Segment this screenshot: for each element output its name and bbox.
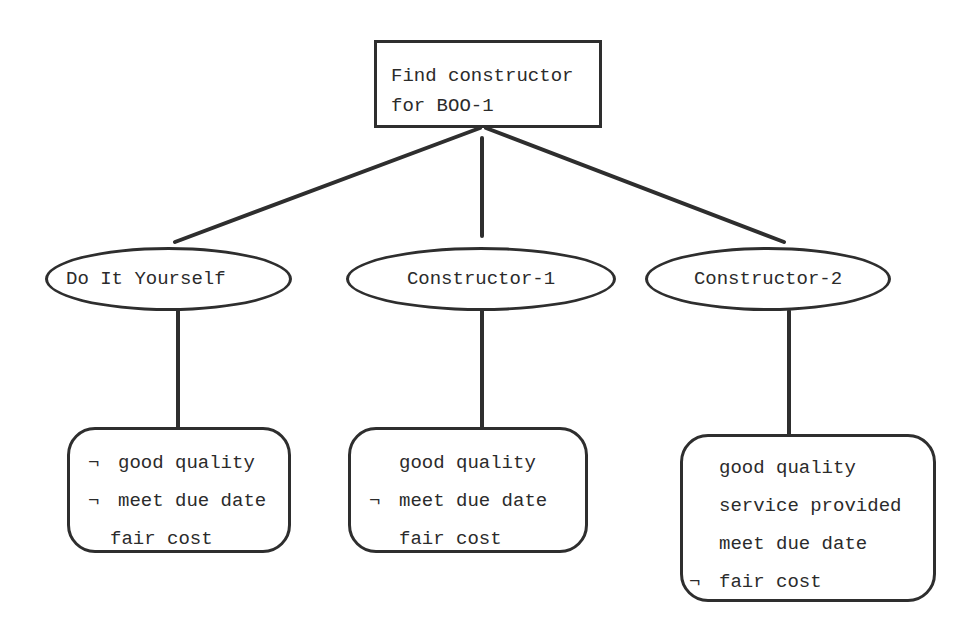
- negation-symbol: [369, 520, 399, 558]
- attribute-text: fair cost: [110, 520, 213, 558]
- negation-symbol: ¬: [88, 444, 118, 482]
- edge-root-c2: [486, 128, 784, 242]
- option-node-constructor-1: Constructor-1: [346, 247, 616, 311]
- option-node-constructor-2: Constructor-2: [645, 247, 891, 311]
- attribute-item: ¬ meet due date: [369, 482, 585, 520]
- attribute-text: meet due date: [719, 525, 867, 563]
- attribute-item: service provided: [689, 487, 933, 525]
- negation-symbol: ¬: [369, 482, 399, 520]
- negation-symbol: [689, 487, 719, 525]
- attribute-item: ¬ fair cost: [689, 563, 933, 601]
- attributes-box-constructor-1: good quality ¬ meet due date fair cost: [348, 427, 588, 553]
- option-label: Do It Yourself: [66, 268, 226, 290]
- option-node-do-it-yourself: Do It Yourself: [45, 247, 292, 311]
- attribute-text: meet due date: [118, 482, 266, 520]
- attribute-item: ¬ meet due date: [88, 482, 288, 520]
- negation-symbol: [88, 520, 110, 558]
- negation-symbol: [369, 444, 399, 482]
- negation-symbol: [689, 449, 719, 487]
- attributes-box-do-it-yourself: ¬ good quality ¬ meet due date fair cost: [67, 427, 291, 553]
- negation-symbol: [689, 525, 719, 563]
- negation-symbol: ¬: [88, 482, 118, 520]
- edge-root-diy: [175, 128, 480, 242]
- option-label: Constructor-1: [407, 268, 555, 290]
- option-label: Constructor-2: [694, 268, 842, 290]
- attribute-text: good quality: [719, 449, 856, 487]
- attribute-item: good quality: [369, 444, 585, 482]
- attribute-item: ¬ good quality: [88, 444, 288, 482]
- attributes-box-constructor-2: good quality service provided meet due d…: [680, 434, 936, 602]
- root-goal-node: Find constructor for BOO-1: [374, 40, 602, 128]
- attribute-text: good quality: [399, 444, 536, 482]
- attribute-text: fair cost: [719, 563, 822, 601]
- attribute-text: good quality: [118, 444, 255, 482]
- root-label-line2: for BOO-1: [391, 91, 599, 121]
- attribute-item: fair cost: [88, 520, 288, 558]
- attribute-item: good quality: [689, 449, 933, 487]
- attribute-item: fair cost: [369, 520, 585, 558]
- attribute-text: meet due date: [399, 482, 547, 520]
- root-label-line1: Find constructor: [391, 61, 599, 91]
- attribute-text: fair cost: [399, 520, 502, 558]
- negation-symbol: ¬: [689, 563, 719, 601]
- attribute-text: service provided: [719, 487, 901, 525]
- attribute-item: meet due date: [689, 525, 933, 563]
